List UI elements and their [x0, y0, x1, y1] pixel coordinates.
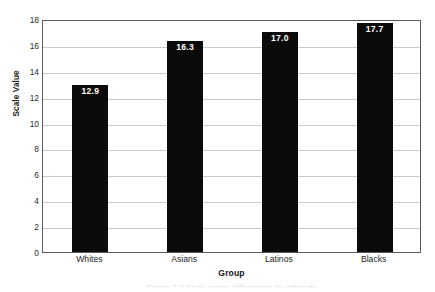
- y-tick-label: 10: [19, 119, 39, 127]
- y-tick-label: 14: [19, 68, 39, 76]
- y-tick-label: 6: [19, 171, 39, 179]
- bars-layer: 12.916.317.017.7: [43, 21, 420, 252]
- bar-group: 16.3: [138, 21, 233, 252]
- bar-group: 17.7: [327, 21, 422, 252]
- bar-value-label: 16.3: [167, 43, 203, 52]
- bar[interactable]: 12.9: [72, 85, 108, 252]
- plot-area: 12.916.317.017.7: [42, 20, 421, 253]
- y-tick-label: 12: [19, 93, 39, 101]
- x-tick-label: Blacks: [326, 255, 421, 264]
- x-axis-title: Group: [42, 268, 421, 278]
- x-axis-tick-labels: WhitesAsiansLatinosBlacks: [42, 255, 421, 267]
- y-tick-label: 8: [19, 145, 39, 153]
- bar[interactable]: 17.7: [357, 23, 393, 252]
- bar-value-label: 17.0: [262, 34, 298, 43]
- x-tick-label: Asians: [137, 255, 232, 264]
- bar[interactable]: 17.0: [262, 32, 298, 252]
- bar-value-label: 12.9: [72, 87, 108, 96]
- bar-group: 17.0: [233, 21, 328, 252]
- y-tick-label: 4: [19, 197, 39, 205]
- y-axis-tick-labels: 024681012141618: [16, 20, 39, 253]
- bar-value-label: 17.7: [357, 25, 393, 34]
- y-tick-label: 2: [19, 223, 39, 231]
- x-tick-label: Whites: [42, 255, 137, 264]
- bar-group: 12.9: [43, 21, 138, 252]
- bar-chart-figure: Scale Value 024681012141618 12.916.317.0…: [0, 0, 435, 292]
- figure-caption: Figure 2.2 Scale score differences by et…: [42, 284, 421, 292]
- bar[interactable]: 16.3: [167, 41, 203, 252]
- y-tick-label: 18: [19, 16, 39, 24]
- y-tick-label: 16: [19, 42, 39, 50]
- y-tick-label: 0: [19, 249, 39, 257]
- x-tick-label: Latinos: [232, 255, 327, 264]
